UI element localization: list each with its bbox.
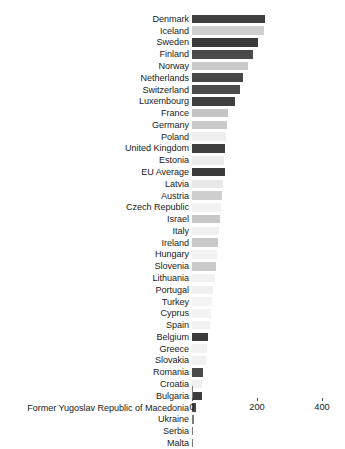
chart-row: Ukraine (0, 414, 345, 426)
chart-row: Estonia (0, 154, 345, 166)
category-label: United Kingdom (125, 143, 189, 153)
category-label: Romania (153, 367, 189, 377)
x-tick-mark-1 (257, 398, 258, 401)
x-tick-label-0: 0 (189, 402, 194, 413)
bar (192, 26, 264, 35)
chart-row: Romania (0, 366, 345, 378)
category-label: Sweden (156, 37, 189, 47)
bar (192, 262, 216, 271)
bar (192, 368, 203, 377)
category-label: Portugal (156, 285, 189, 295)
bar (192, 191, 222, 200)
bar (192, 356, 206, 365)
chart-row: Italy (0, 225, 345, 237)
category-label: EU Average (141, 167, 189, 177)
category-label: Ukraine (158, 414, 189, 424)
chart-row: Denmark (0, 13, 345, 25)
chart-row: Malta (0, 437, 345, 449)
category-label: Czech Republic (126, 202, 189, 212)
category-label: Belgium (156, 332, 189, 342)
chart-row: Poland (0, 131, 345, 143)
category-label: Germany (152, 120, 189, 130)
bar (192, 439, 193, 448)
category-label: Iceland (160, 26, 189, 36)
category-label: Israel (167, 214, 189, 224)
chart-row: Netherlands (0, 72, 345, 84)
bar (192, 15, 265, 24)
chart-row: EU Average (0, 166, 345, 178)
bar (192, 250, 217, 259)
chart-row: Finland (0, 48, 345, 60)
category-label: France (161, 108, 189, 118)
category-label: Latvia (165, 179, 189, 189)
category-label: Netherlands (141, 73, 190, 83)
chart-row: Spain (0, 319, 345, 331)
chart-row: Ireland (0, 237, 345, 249)
y-axis-line (192, 386, 193, 398)
chart-row: Norway (0, 60, 345, 72)
chart-row: Turkey (0, 296, 345, 308)
chart-row: Greece (0, 343, 345, 355)
bar (192, 297, 212, 306)
chart-row: Luxembourg (0, 95, 345, 107)
bar (192, 203, 221, 212)
category-label: Italy (173, 226, 189, 236)
category-label: Cyprus (160, 308, 189, 318)
category-label: Serbia (163, 426, 189, 436)
chart-row: Switzerland (0, 84, 345, 96)
category-label: Greece (159, 344, 189, 354)
bar (192, 97, 235, 106)
chart-row: Israel (0, 213, 345, 225)
bar (192, 344, 207, 353)
chart-row: Cyprus (0, 308, 345, 320)
chart-row: Lithuania (0, 272, 345, 284)
category-label: Estonia (159, 155, 189, 165)
category-label: Switzerland (143, 85, 189, 95)
chart-row: France (0, 107, 345, 119)
category-label: Norway (158, 61, 189, 71)
bar (192, 415, 194, 424)
chart-row: Hungary (0, 249, 345, 261)
category-label: Poland (161, 132, 189, 142)
category-label: Hungary (155, 249, 189, 259)
category-label: Turkey (162, 297, 189, 307)
bar (192, 380, 202, 389)
chart-row: Slovakia (0, 355, 345, 367)
bar (192, 215, 220, 224)
chart-row: Czech Republic (0, 201, 345, 213)
chart-row: Latvia (0, 178, 345, 190)
chart-row: United Kingdom (0, 143, 345, 155)
chart-row: Slovenia (0, 260, 345, 272)
bar (192, 109, 228, 118)
category-label: Ireland (162, 238, 189, 248)
bar (192, 168, 225, 177)
chart-row: Belgium (0, 331, 345, 343)
bar (192, 73, 243, 82)
chart-row: Croatia (0, 378, 345, 390)
bar (192, 144, 225, 153)
category-label: Spain (166, 320, 189, 330)
category-label: Luxembourg (139, 96, 189, 106)
bar (192, 427, 193, 436)
bar (192, 274, 215, 283)
bar (192, 321, 210, 330)
bar (192, 50, 253, 59)
bar (192, 309, 211, 318)
bar (192, 333, 208, 342)
category-label: Lithuania (153, 273, 189, 283)
category-label: Finland (160, 49, 189, 59)
chart-row: Former Yugoslav Republic of Macedonia (0, 402, 345, 414)
bar (192, 85, 240, 94)
category-label: Bulgaria (156, 391, 189, 401)
bar (192, 62, 248, 71)
category-label: Slovenia (155, 261, 189, 271)
bar (192, 286, 213, 295)
bar (192, 180, 223, 189)
category-label: Croatia (160, 379, 189, 389)
category-label: Austria (161, 191, 189, 201)
category-label: Malta (167, 438, 189, 448)
chart-row: Bulgaria (0, 390, 345, 402)
chart-row: Serbia (0, 425, 345, 437)
